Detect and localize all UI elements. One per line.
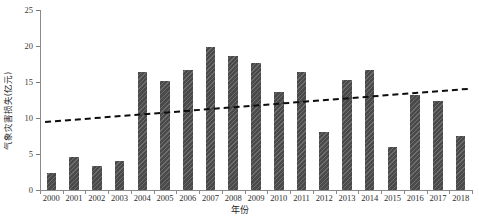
bar xyxy=(160,81,170,190)
bar xyxy=(47,173,57,190)
bar xyxy=(228,56,238,190)
x-tick-label: 2005 xyxy=(157,193,174,203)
bar xyxy=(92,166,102,190)
x-tick-label: 2009 xyxy=(248,193,265,203)
y-tick-mark xyxy=(36,10,40,11)
x-tick-mark xyxy=(472,190,473,194)
bar xyxy=(274,92,284,190)
x-tick-mark xyxy=(267,190,268,194)
weather-disaster-loss-bar-chart: 气象灾害损失(亿元) 0510152025 200020012002200320… xyxy=(0,0,479,222)
x-tick-mark xyxy=(381,190,382,194)
bar xyxy=(115,161,125,190)
bar xyxy=(388,147,398,190)
bar xyxy=(433,101,443,190)
bar xyxy=(69,157,79,190)
x-tick-label: 2006 xyxy=(179,193,196,203)
bar xyxy=(297,72,307,190)
x-tick-label: 2015 xyxy=(384,193,401,203)
y-tick-label: 10 xyxy=(13,113,33,123)
x-tick-label: 2004 xyxy=(134,193,151,203)
y-tick-label: 5 xyxy=(13,149,33,159)
x-tick-mark xyxy=(358,190,359,194)
y-tick-mark xyxy=(36,82,40,83)
bar xyxy=(410,95,420,190)
x-tick-mark xyxy=(108,190,109,194)
y-tick-label: 0 xyxy=(13,185,33,195)
bar xyxy=(138,72,148,190)
x-tick-mark xyxy=(154,190,155,194)
x-tick-label: 2003 xyxy=(111,193,128,203)
x-tick-label: 2008 xyxy=(225,193,242,203)
x-tick-mark xyxy=(85,190,86,194)
bar xyxy=(251,63,261,190)
x-tick-label: 2012 xyxy=(316,193,333,203)
x-tick-mark xyxy=(199,190,200,194)
y-axis-line xyxy=(40,10,41,191)
x-tick-mark xyxy=(131,190,132,194)
x-tick-mark xyxy=(427,190,428,194)
x-tick-mark xyxy=(176,190,177,194)
y-tick-mark xyxy=(36,154,40,155)
x-tick-label: 2002 xyxy=(88,193,105,203)
y-tick-label: 25 xyxy=(13,5,33,15)
x-axis-line xyxy=(40,190,472,191)
x-tick-mark xyxy=(404,190,405,194)
x-axis-title: 年份 xyxy=(0,203,479,216)
x-tick-label: 2011 xyxy=(293,193,310,203)
y-tick-label: 15 xyxy=(13,77,33,87)
x-tick-label: 2017 xyxy=(429,193,446,203)
x-tick-label: 2010 xyxy=(270,193,287,203)
bar xyxy=(319,132,329,190)
bar xyxy=(365,70,375,190)
bar xyxy=(183,70,193,190)
x-tick-mark xyxy=(63,190,64,194)
x-tick-label: 2000 xyxy=(43,193,60,203)
bar xyxy=(456,136,466,190)
y-tick-label: 20 xyxy=(13,41,33,51)
x-tick-label: 2001 xyxy=(66,193,83,203)
x-tick-label: 2016 xyxy=(407,193,424,203)
x-tick-mark xyxy=(313,190,314,194)
x-tick-mark xyxy=(245,190,246,194)
x-tick-label: 2014 xyxy=(361,193,378,203)
x-tick-mark xyxy=(449,190,450,194)
bar xyxy=(206,47,216,190)
x-tick-mark xyxy=(222,190,223,194)
x-tick-label: 2013 xyxy=(338,193,355,203)
x-tick-label: 2007 xyxy=(202,193,219,203)
x-tick-mark xyxy=(40,190,41,194)
x-tick-mark xyxy=(336,190,337,194)
y-tick-mark xyxy=(36,118,40,119)
y-tick-mark xyxy=(36,46,40,47)
x-tick-mark xyxy=(290,190,291,194)
x-tick-label: 2018 xyxy=(452,193,469,203)
watermark-left: · xyxy=(150,198,152,204)
